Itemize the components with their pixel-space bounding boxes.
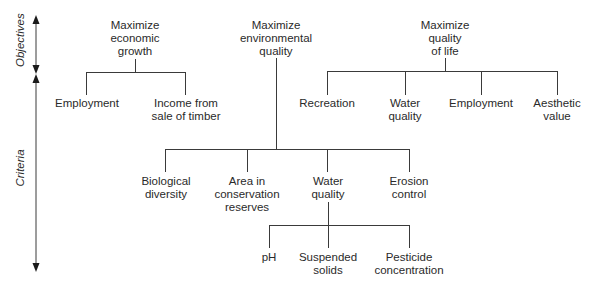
objectives-axis-label: Objectives xyxy=(14,17,26,67)
criteria-axis-label: Criteria xyxy=(14,148,26,188)
objectives-criteria-hierarchy-diagram: Objectives Criteria Maximize economic gr… xyxy=(0,0,597,291)
criterion-water-quality: Water quality xyxy=(311,175,344,201)
objective-economic-growth: Maximize economic growth xyxy=(110,19,159,58)
arrow-up-icon xyxy=(33,15,40,24)
objective-environmental-quality: Maximize environmental quality xyxy=(240,19,312,58)
criterion-erosion-control: Erosion control xyxy=(390,175,429,201)
arrow-down-icon xyxy=(33,263,40,272)
criterion-water-quality-qol: Water quality xyxy=(388,97,421,123)
subcriterion-pesticide-concentration: Pesticide concentration xyxy=(374,251,443,277)
criterion-biological-diversity: Biological diversity xyxy=(141,175,190,201)
criterion-employment: Employment xyxy=(55,97,119,110)
arrow-up-icon xyxy=(33,74,40,83)
arrow-down-icon xyxy=(33,65,40,74)
criterion-employment-qol: Employment xyxy=(449,97,513,110)
subcriterion-suspended-solids: Suspended solids xyxy=(299,251,357,277)
objective-quality-of-life: Maximize quality of life xyxy=(421,19,470,58)
criterion-aesthetic-value: Aesthetic value xyxy=(533,97,580,123)
criterion-area-conservation-reserves: Area in conservation reserves xyxy=(214,175,279,214)
subcriterion-ph: pH xyxy=(262,251,277,264)
criterion-recreation: Recreation xyxy=(299,97,355,110)
criterion-income-from-timber: Income from sale of timber xyxy=(151,97,220,123)
